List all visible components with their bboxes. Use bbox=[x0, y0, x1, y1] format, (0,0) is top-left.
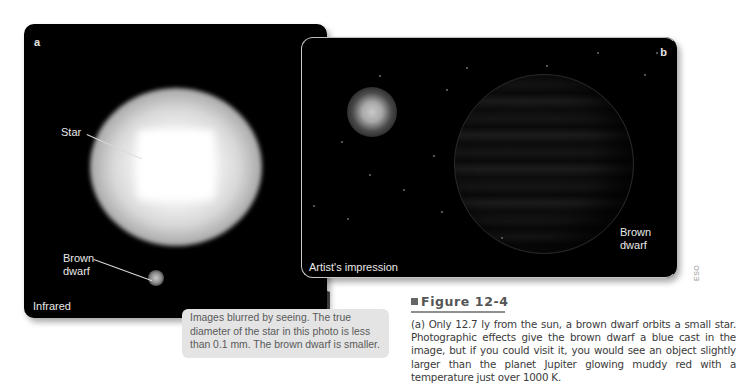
star-dot bbox=[433, 155, 435, 157]
figure-title-text: Figure 12-4 bbox=[421, 294, 509, 309]
star-dot bbox=[644, 74, 646, 76]
seeing-callout: Images blurred by seeing. The true diame… bbox=[182, 309, 389, 358]
brown-dwarf-leader-line bbox=[94, 259, 153, 281]
brown-dwarf-label-line2: dwarf bbox=[63, 265, 90, 278]
star-dot bbox=[501, 237, 503, 239]
callout-text: Images blurred by seeing. The true diame… bbox=[190, 312, 380, 350]
star-dot bbox=[546, 65, 548, 67]
star-dot bbox=[313, 205, 315, 207]
star-dot bbox=[379, 75, 381, 77]
panel-letter-b: b bbox=[660, 46, 667, 58]
star-dot bbox=[369, 174, 371, 176]
star-dot bbox=[347, 218, 349, 220]
image-credit: ESO bbox=[693, 265, 700, 281]
brown-dwarf-planet bbox=[454, 74, 634, 254]
brown-dwarf-blob bbox=[148, 270, 164, 286]
infrared-image-panel: a Star Brown dwarf Infrared bbox=[24, 24, 327, 318]
star-dot bbox=[597, 52, 599, 54]
star-dot bbox=[341, 141, 343, 143]
figure-title-rule bbox=[411, 311, 505, 313]
figure-caption: (a) Only 12.7 ly from the sun, a brown d… bbox=[411, 318, 736, 384]
star-dot bbox=[441, 211, 443, 213]
star-dot bbox=[446, 89, 448, 91]
artist-impression-panel: b Brown dwarf Artist's impression bbox=[301, 37, 677, 278]
brown-dwarf-label-line2: dwarf bbox=[620, 239, 647, 252]
star-dot bbox=[403, 189, 405, 191]
star-core bbox=[137, 130, 215, 200]
star-dot bbox=[656, 52, 658, 54]
panel-letter-a: a bbox=[34, 36, 40, 48]
brown-dwarf-label-line1: Brown bbox=[63, 252, 94, 265]
small-star-image bbox=[347, 87, 397, 137]
star-label: Star bbox=[61, 126, 81, 139]
brown-dwarf-label-line1: Brown bbox=[620, 226, 651, 239]
artist-impression-label: Artist's impression bbox=[309, 261, 398, 274]
star-dot bbox=[466, 67, 468, 69]
infrared-label: Infrared bbox=[33, 300, 71, 313]
square-bullet-icon bbox=[411, 298, 418, 305]
figure-title: Figure 12-4 bbox=[411, 294, 509, 309]
